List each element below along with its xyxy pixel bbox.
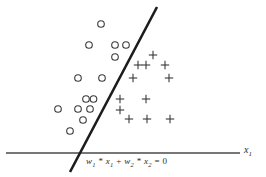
circle-marker: [80, 117, 87, 124]
plus-marker: [142, 95, 150, 103]
plus-marker: [165, 74, 173, 82]
circle-marker: [98, 21, 105, 28]
equation-times-2: *: [137, 156, 142, 166]
equation-times-1: *: [98, 156, 103, 166]
decision-boundary-group: [70, 7, 157, 172]
circle-marker: [87, 106, 94, 113]
circle-marker: [86, 42, 93, 49]
classifier-diagram: x1 w1 * x1 + w2 * x2 = 0: [0, 0, 266, 177]
plus-marker: [149, 51, 157, 59]
decision-boundary-line: [70, 7, 157, 172]
circle-marker: [75, 106, 82, 113]
plus-marker: [161, 61, 169, 69]
plus-marker: [116, 106, 124, 114]
equation-w1-sub: 1: [92, 161, 96, 168]
circle-marker: [99, 75, 106, 82]
circle-marker: [55, 106, 62, 113]
x-axis-label: x1: [244, 144, 252, 158]
x-axis-label-subscript: 1: [248, 150, 252, 158]
plus-marker: [166, 115, 174, 123]
negative-class-markers: [55, 21, 130, 135]
plus-marker: [143, 115, 151, 123]
plot-canvas: [0, 0, 266, 177]
equation-value: 0: [162, 156, 167, 166]
circle-marker: [75, 75, 82, 82]
circle-marker: [90, 96, 97, 103]
circle-marker: [83, 96, 90, 103]
circle-marker: [123, 42, 130, 49]
circle-marker: [112, 42, 119, 49]
plus-marker: [116, 95, 124, 103]
positive-class-markers: [116, 51, 174, 123]
circle-marker: [67, 128, 74, 135]
equation-w2-sub: 2: [131, 161, 135, 168]
circle-marker: [112, 54, 119, 61]
plus-marker: [125, 115, 133, 123]
plus-marker: [134, 61, 142, 69]
equation-plus: +: [116, 156, 121, 166]
equation-x2-sub: 2: [148, 161, 152, 168]
equation-x1-sub: 1: [110, 161, 114, 168]
equation-equals: =: [154, 156, 159, 166]
plus-marker: [129, 74, 137, 82]
plus-marker: [142, 61, 150, 69]
decision-boundary-equation: w1 * x1 + w2 * x2 = 0: [86, 156, 167, 168]
